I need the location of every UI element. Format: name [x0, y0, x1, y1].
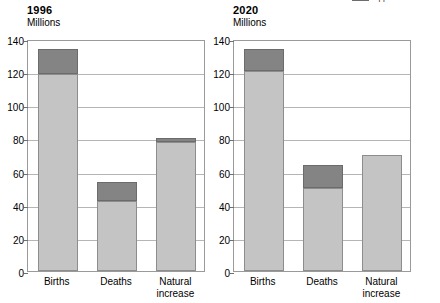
- y-axis-tick-label: 100: [213, 102, 230, 113]
- y-axis-tick-mark: [24, 240, 28, 241]
- bar-segment-upper: [97, 182, 137, 202]
- y-axis-tick-mark: [24, 207, 28, 208]
- y-axis-tick-mark: [230, 240, 234, 241]
- x-axis-category-label: Naturalincrease: [348, 276, 414, 300]
- y-axis-tick-label: 80: [219, 135, 230, 146]
- x-axis-category-label: Births: [230, 276, 296, 288]
- chart-panel-1996: 1996 Millions 020406080100120140 BirthsD…: [0, 0, 210, 303]
- y-axis-tick-label: 20: [13, 234, 24, 245]
- plot-area-2020: 020406080100120140: [233, 40, 411, 272]
- bar-segment-upper: [156, 138, 196, 141]
- y-axis-tick-mark: [230, 41, 234, 42]
- bar-segment-lower: [156, 142, 196, 271]
- bar-segment-lower: [244, 71, 284, 272]
- bar-deaths: [303, 165, 343, 271]
- y-axis-unit-label: Millions: [27, 17, 60, 28]
- y-axis-tick-label: 140: [7, 36, 24, 47]
- y-axis-tick-mark: [230, 273, 234, 274]
- bar-natural-increase: [362, 155, 402, 271]
- y-axis-tick-label: 60: [13, 168, 24, 179]
- bar-segment-lower: [97, 201, 137, 271]
- y-axis-tick-mark: [230, 107, 234, 108]
- bar-births: [38, 49, 78, 271]
- y-axis-tick-label: 40: [13, 201, 24, 212]
- bar-segment-lower: [303, 188, 343, 271]
- y-axis-tick-mark: [24, 273, 28, 274]
- y-axis-unit-label: Millions: [233, 17, 266, 28]
- plot-area-1996: 020406080100120140: [27, 40, 205, 272]
- y-axis-tick-mark: [24, 74, 28, 75]
- y-axis-tick-label: 140: [213, 36, 230, 47]
- x-axis-category-label: Deaths: [83, 276, 149, 288]
- y-axis-tick-mark: [24, 41, 28, 42]
- y-axis-tick-label: 120: [7, 69, 24, 80]
- y-axis-tick-mark: [24, 140, 28, 141]
- bar-segment-lower: [38, 74, 78, 271]
- bar-natural-increase: [156, 138, 196, 271]
- bar-segment-upper: [303, 165, 343, 188]
- x-axis-category-label: Naturalincrease: [142, 276, 208, 300]
- y-axis-tick-label: 20: [219, 234, 230, 245]
- bar-segment-upper: [244, 49, 284, 71]
- y-axis-tick-label: 100: [7, 102, 24, 113]
- y-axis-tick-label: 80: [13, 135, 24, 146]
- y-axis-tick-label: 120: [213, 69, 230, 80]
- y-axis-tick-mark: [230, 207, 234, 208]
- y-axis-tick-mark: [230, 74, 234, 75]
- y-axis-tick-mark: [230, 174, 234, 175]
- x-axis-category-label: Deaths: [289, 276, 355, 288]
- bar-segment-lower: [362, 155, 402, 271]
- y-axis-tick-label: 60: [219, 168, 230, 179]
- bar-births: [244, 49, 284, 271]
- x-axis-category-label: Births: [24, 276, 90, 288]
- panel-title: 1996: [27, 4, 52, 16]
- y-axis-tick-mark: [24, 107, 28, 108]
- panel-title: 2020: [233, 4, 258, 16]
- chart-panel-2020: 2020 Millions 020406080100120140 BirthsD…: [206, 0, 416, 303]
- y-axis-tick-mark: [24, 174, 28, 175]
- y-axis-tick-mark: [230, 140, 234, 141]
- bar-deaths: [97, 182, 137, 271]
- y-axis-tick-label: 40: [219, 201, 230, 212]
- bar-segment-upper: [38, 49, 78, 74]
